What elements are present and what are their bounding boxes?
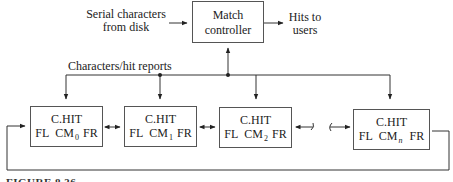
cell-module: CM — [379, 129, 398, 143]
cell-module: CM — [149, 126, 168, 140]
output-label-line2: users — [285, 24, 325, 37]
cell-right-field: FR — [410, 129, 425, 143]
cell-left-field: FL — [129, 126, 143, 140]
cell-module: CM — [55, 126, 74, 140]
figure-caption: FIGURE 8.36 — [6, 176, 76, 182]
cell-fields: FL CM1 FR — [125, 126, 196, 142]
bus-label: Characters/hit reports — [68, 60, 172, 73]
cell-title: C.HIT — [354, 115, 429, 130]
cell-subscript: n — [399, 136, 403, 145]
cell-fields: FL CM0 FR — [31, 126, 102, 142]
cell-subscript: 2 — [264, 134, 268, 143]
input-label-line2: from disk — [85, 21, 167, 34]
cell-title: C.HIT — [220, 113, 291, 128]
cell-fields: FL CM2 FR — [220, 127, 291, 143]
cell-subscript: 0 — [75, 133, 79, 142]
cell-box-1: C.HIT FL CM1 FR — [124, 106, 197, 147]
output-label: Hits to users — [285, 11, 325, 37]
cell-module: CM — [244, 127, 263, 141]
controller-line2: controller — [193, 24, 263, 37]
cell-box-2: C.HIT FL CM2 FR — [219, 107, 292, 148]
cell-title: C.HIT — [125, 112, 196, 127]
controller-line1: Match — [193, 9, 263, 22]
cell-right-field: FR — [83, 126, 98, 140]
cell-box-n: C.HIT FL CMn FR — [353, 109, 430, 150]
cell-left-field: FL — [359, 129, 373, 143]
cell-left-field: FL — [35, 126, 49, 140]
input-label: Serial characters from disk — [85, 8, 167, 34]
cell-box-0: C.HIT FL CM0 FR — [30, 106, 103, 147]
cell-right-field: FR — [177, 126, 192, 140]
cell-fields: FL CMn FR — [354, 129, 429, 145]
cell-subscript: 1 — [169, 133, 173, 142]
cell-title: C.HIT — [31, 112, 102, 127]
bus-junction-controller — [226, 73, 230, 77]
cell-right-field: FR — [272, 127, 287, 141]
cell-left-field: FL — [224, 127, 238, 141]
bus-junction-left — [158, 73, 162, 77]
match-controller-box: Match controller — [192, 1, 264, 43]
